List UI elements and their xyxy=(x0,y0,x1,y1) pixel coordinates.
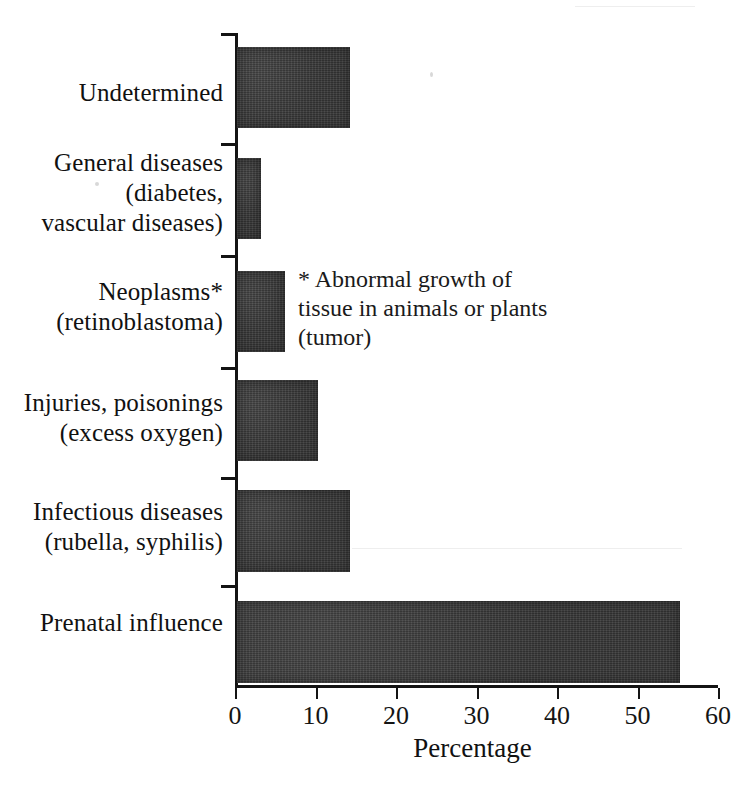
x-axis-tick xyxy=(477,688,479,699)
category-label-line: (rubella, syphilis) xyxy=(0,527,223,557)
category-label-infectious-diseases: Infectious diseases (rubella, syphilis) xyxy=(0,497,223,557)
y-axis-tick xyxy=(221,585,236,588)
x-axis-tick-label: 20 xyxy=(366,701,426,731)
x-axis-tick xyxy=(638,688,640,699)
category-label-line: Injuries, poisonings xyxy=(24,389,223,416)
x-axis-tick xyxy=(396,688,398,699)
scan-line xyxy=(352,548,682,549)
bar-infectious-diseases xyxy=(237,490,350,572)
bar-neoplasms xyxy=(237,271,285,352)
x-axis-tick-label: 10 xyxy=(286,701,346,731)
bar-prenatal-influence xyxy=(237,601,680,683)
plot-area: 0102030405060 xyxy=(235,33,718,685)
category-label-line: (retinoblastoma) xyxy=(0,307,223,337)
y-axis-tick xyxy=(221,477,236,480)
y-axis-tick xyxy=(221,33,236,36)
x-axis-tick-label: 50 xyxy=(608,701,668,731)
bar-injuries-poisonings xyxy=(237,380,318,461)
category-label-prenatal-influence: Prenatal influence xyxy=(0,608,223,638)
x-axis-tick xyxy=(557,688,559,699)
y-axis-tick xyxy=(221,255,236,258)
y-axis-tick xyxy=(221,367,236,370)
category-label-line: (diabetes, xyxy=(0,178,223,208)
category-label-line: Neoplasms* xyxy=(98,278,223,305)
category-label-injuries-poisonings: Injuries, poisonings (excess oxygen) xyxy=(0,388,223,448)
scan-line xyxy=(575,6,695,7)
category-label-neoplasms: Neoplasms* (retinoblastoma) xyxy=(0,277,223,337)
scan-speck xyxy=(430,72,433,77)
x-axis-tick-label: 0 xyxy=(205,701,265,731)
category-label-line: (excess oxygen) xyxy=(0,418,223,448)
category-label-line: vascular diseases) xyxy=(0,208,223,238)
x-axis-tick xyxy=(718,688,720,699)
category-label-line: Undetermined xyxy=(79,79,223,106)
x-axis-tick-label: 30 xyxy=(447,701,507,731)
category-label-general-diseases: General diseases (diabetes, vascular dis… xyxy=(0,148,223,238)
bar-undetermined xyxy=(237,47,350,128)
x-axis-title: Percentage xyxy=(0,733,755,764)
x-axis-tick xyxy=(316,688,318,699)
x-axis-tick-label: 60 xyxy=(688,701,748,731)
category-label-line: Infectious diseases xyxy=(33,498,223,525)
y-axis-tick xyxy=(221,143,236,146)
category-label-undetermined: Undetermined xyxy=(0,78,223,108)
category-label-line: Prenatal influence xyxy=(40,609,223,636)
x-axis-tick xyxy=(235,688,237,699)
bar-general-diseases xyxy=(237,158,261,239)
scan-speck xyxy=(95,182,99,186)
chart-figure: Undetermined General diseases (diabetes,… xyxy=(0,0,755,795)
category-label-line: General diseases xyxy=(54,149,223,176)
x-axis-tick-label: 40 xyxy=(527,701,587,731)
